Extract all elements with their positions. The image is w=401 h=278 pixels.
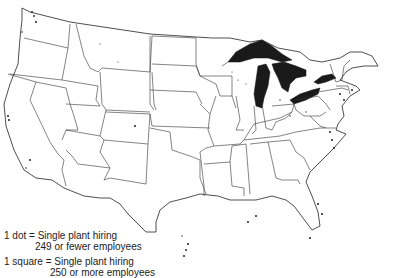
plant-dots bbox=[7, 11, 353, 257]
legend-square-line1: 1 square = Single plant hiring bbox=[4, 256, 155, 267]
legend-dot-line1: 1 dot = Single plant hiring bbox=[4, 230, 155, 241]
lake-huron bbox=[272, 62, 306, 92]
legend-dot-line2: 249 or fewer employees bbox=[4, 241, 155, 252]
legend-square-line2: 250 or more employees bbox=[4, 267, 155, 278]
us-outline bbox=[4, 8, 378, 232]
state-boundaries bbox=[8, 24, 350, 196]
map-legend: 1 dot = Single plant hiring 249 or fewer… bbox=[4, 230, 155, 278]
lake-ontario bbox=[314, 74, 336, 84]
lake-superior bbox=[228, 40, 292, 62]
lake-michigan bbox=[254, 64, 270, 108]
lake-erie bbox=[290, 88, 320, 104]
